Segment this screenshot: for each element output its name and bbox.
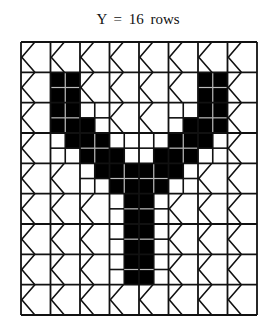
chevron-icon	[22, 42, 35, 72]
filled-pixel	[213, 118, 228, 133]
filled-pixel	[169, 163, 184, 178]
chevron-icon	[228, 194, 241, 224]
filled-pixel	[124, 194, 139, 209]
chevron-icon	[169, 42, 182, 72]
filled-pixel	[154, 179, 169, 194]
chevron-icon	[169, 72, 182, 102]
filled-pixel	[51, 72, 66, 87]
filled-pixel	[183, 148, 198, 163]
chevron-icon	[228, 163, 241, 193]
filled-pixel	[65, 72, 80, 87]
chevron-icon	[81, 224, 94, 254]
chevron-icon	[81, 285, 94, 315]
filled-pixel	[169, 133, 184, 148]
filled-pixel	[183, 133, 198, 148]
chevron-icon	[22, 72, 35, 102]
chevron-icon	[22, 133, 35, 163]
filled-pixel	[169, 148, 184, 163]
chevron-icon	[140, 103, 153, 133]
chevron-icon	[110, 103, 123, 133]
chevron-icon	[228, 72, 241, 102]
filled-pixel	[139, 163, 154, 178]
filled-pixel	[65, 103, 80, 118]
chevron-icon	[81, 194, 94, 224]
chevron-icon	[110, 72, 123, 102]
filled-pixel	[110, 163, 125, 178]
chevron-icon	[22, 163, 35, 193]
filled-pixel	[124, 239, 139, 254]
filled-pixel	[65, 88, 80, 103]
chevron-icon	[51, 224, 64, 254]
chevron-icon	[199, 224, 212, 254]
filled-pixel	[154, 148, 169, 163]
chevron-icon	[199, 285, 212, 315]
chevron-icon	[51, 254, 64, 284]
chevron-icon	[228, 42, 241, 72]
chevron-icon	[199, 42, 212, 72]
filled-pixel	[139, 209, 154, 224]
chevron-icon	[140, 285, 153, 315]
chevron-icon	[81, 42, 94, 72]
chevron-icon	[110, 285, 123, 315]
filled-pixel	[80, 148, 95, 163]
filled-pixel	[51, 103, 66, 118]
filled-pixel	[139, 224, 154, 239]
filled-pixel	[124, 179, 139, 194]
chevron-icon	[81, 72, 94, 102]
filled-pixel	[154, 163, 169, 178]
filled-pixel	[198, 133, 213, 148]
chevron-icon	[228, 133, 241, 163]
chevron-icon	[140, 42, 153, 72]
filled-pixel	[124, 209, 139, 224]
chevron-icon	[169, 285, 182, 315]
chevron-icon	[22, 224, 35, 254]
chevron-icon	[81, 254, 94, 284]
filled-pixel	[213, 72, 228, 87]
chevron-icon	[199, 254, 212, 284]
filled-pixel	[213, 103, 228, 118]
filled-pixel	[65, 118, 80, 133]
filled-pixel	[95, 163, 110, 178]
chevron-icon	[228, 103, 241, 133]
filled-pixel	[80, 133, 95, 148]
filled-pixel	[124, 224, 139, 239]
chevron-icon	[22, 103, 35, 133]
chevron-icon	[228, 285, 241, 315]
filled-pixel	[183, 118, 198, 133]
chevron-icon	[199, 163, 212, 193]
filled-pixel	[110, 148, 125, 163]
filled-pixel	[51, 118, 66, 133]
chevron-icon	[51, 42, 64, 72]
chevron-icon	[51, 163, 64, 193]
filled-pixel	[124, 270, 139, 285]
filled-pixel	[124, 163, 139, 178]
chevron-icon	[110, 42, 123, 72]
chevron-icon	[22, 254, 35, 284]
chevron-icon	[199, 194, 212, 224]
filled-pixel	[198, 118, 213, 133]
chevron-icon	[22, 285, 35, 315]
filled-pixel	[139, 270, 154, 285]
pixel-grid	[0, 0, 276, 333]
chevron-icon	[169, 224, 182, 254]
chevron-icon	[140, 72, 153, 102]
filled-pixel	[95, 133, 110, 148]
filled-pixel	[139, 194, 154, 209]
filled-pixel	[139, 254, 154, 269]
chevron-icon	[228, 224, 241, 254]
chevron-icon	[22, 194, 35, 224]
chevron-icon	[228, 254, 241, 284]
filled-pixel	[139, 179, 154, 194]
filled-pixel	[95, 148, 110, 163]
chevron-icon	[51, 194, 64, 224]
chevron-icon	[169, 254, 182, 284]
filled-pixel	[65, 133, 80, 148]
filled-pixel	[80, 118, 95, 133]
filled-pixel	[198, 103, 213, 118]
filled-pixel	[110, 179, 125, 194]
filled-pixel	[139, 239, 154, 254]
filled-pixel	[198, 72, 213, 87]
filled-pixel	[198, 88, 213, 103]
filled-pixel	[124, 254, 139, 269]
filled-pixel	[213, 88, 228, 103]
